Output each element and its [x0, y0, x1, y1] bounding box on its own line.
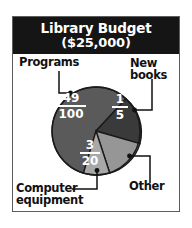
denominator: 100: [56, 108, 86, 120]
leader-line-new-books: [135, 79, 152, 110]
numerator: 49: [56, 92, 86, 104]
numerator: 3: [80, 139, 100, 151]
leader-line-programs: [59, 71, 70, 93]
denominator: 5: [112, 109, 128, 121]
slice-value-new-books: 1 5: [112, 93, 128, 121]
chart-screenshot: Library Budget ($25,000): [0, 0, 192, 228]
pie-chart-plot-area: 49 100 1 5 3 20 Programs New books Other: [13, 54, 179, 211]
category-label-new-books-line2: books: [130, 68, 167, 82]
chart-title-bar: Library Budget ($25,000): [13, 17, 179, 54]
category-label-programs: Programs: [19, 57, 79, 69]
numerator: 1: [112, 93, 128, 105]
denominator: 20: [80, 155, 100, 167]
leader-dot-other: [127, 154, 132, 159]
category-label-new-books: New books: [130, 58, 167, 82]
leader-dot-new-books: [132, 108, 137, 113]
page-subtitle: ($25,000): [61, 36, 130, 49]
category-label-computer-equipment: Computer equipment: [16, 183, 83, 207]
category-label-other: Other: [129, 181, 164, 193]
slice-value-programs: 49 100: [56, 92, 86, 120]
category-label-computer-line2: equipment: [16, 193, 83, 207]
leader-dot-computer-equipment: [95, 168, 100, 173]
chart-card: Library Budget ($25,000): [12, 16, 180, 212]
slice-value-computer-equipment: 3 20: [80, 139, 100, 167]
page-title: Library Budget: [41, 22, 152, 36]
